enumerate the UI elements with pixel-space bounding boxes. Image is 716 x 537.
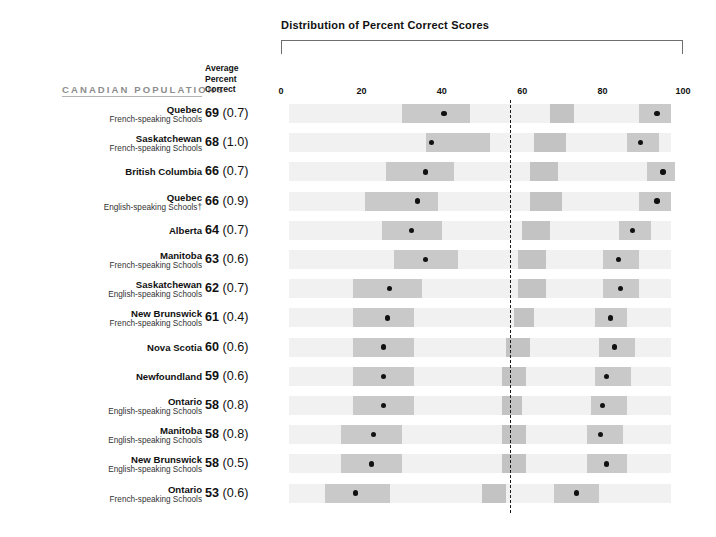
x-axis-tick-100: 100 — [675, 86, 690, 96]
row-standard-error: (0.6) — [219, 252, 248, 266]
median-marker-dot — [369, 461, 374, 466]
row-label-sublabel: English-speaking Schools — [62, 436, 202, 446]
row-standard-error: (0.6) — [219, 486, 248, 500]
row-mean: 66 — [205, 164, 219, 178]
median-marker-dot — [385, 315, 390, 320]
row-average-value: 59 (0.6) — [205, 369, 267, 383]
row-label: Newfoundland — [62, 371, 202, 382]
row-average-value: 62 (0.7) — [205, 281, 267, 295]
row-label-sublabel: French-speaking Schools — [62, 261, 202, 271]
row-average-value: 69 (0.7) — [205, 106, 267, 120]
row-average-value: 58 (0.8) — [205, 398, 267, 412]
row-label: ManitobaFrench-speaking Schools — [62, 250, 202, 271]
row-label: New BrunswickEnglish-speaking Schools — [62, 454, 202, 475]
row-standard-error: (0.8) — [219, 427, 248, 441]
column-header-average-line1: Average — [205, 63, 251, 74]
row-average-value: 60 (0.6) — [205, 340, 267, 354]
row-average-value: 66 (0.7) — [205, 164, 267, 178]
row-standard-error: (0.5) — [219, 456, 248, 470]
percentile-segment — [591, 396, 627, 415]
row-label-sublabel: English-speaking Schools — [62, 290, 202, 300]
percentile-segment — [502, 425, 526, 444]
row-label-name: Newfoundland — [62, 371, 202, 382]
row-average-value: 63 (0.6) — [205, 252, 267, 266]
percentile-segment — [534, 133, 566, 152]
row-standard-error: (0.8) — [219, 398, 248, 412]
percentile-segment — [502, 367, 526, 386]
row-label: SaskatchewanEnglish-speaking Schools — [62, 279, 202, 300]
chart-row: OntarioFrench-speaking Schools53 (0.6) — [0, 484, 716, 513]
chart-row: OntarioEnglish-speaking Schools58 (0.8) — [0, 396, 716, 425]
percentile-segment — [518, 250, 546, 269]
row-average-value: 58 (0.5) — [205, 456, 267, 470]
distribution-band — [289, 162, 671, 181]
row-mean: 53 — [205, 486, 219, 500]
row-label-name: Manitoba — [62, 250, 202, 261]
row-label: Nova Scotia — [62, 342, 202, 353]
median-marker-dot — [441, 111, 446, 116]
percentile-segment — [587, 425, 623, 444]
percentile-segment — [522, 221, 550, 240]
reference-line — [510, 100, 511, 513]
distribution-band — [289, 221, 671, 240]
row-average-value: 58 (0.8) — [205, 427, 267, 441]
median-marker-dot — [604, 461, 609, 466]
row-label-name: Ontario — [62, 396, 202, 407]
row-average-value: 68 (1.0) — [205, 135, 267, 149]
row-average-value: 53 (0.6) — [205, 486, 267, 500]
row-standard-error: (1.0) — [219, 135, 248, 149]
column-header-average-line2: Percent — [205, 74, 251, 85]
percentile-segment — [550, 104, 574, 123]
row-label: ManitobaEnglish-speaking Schools — [62, 425, 202, 446]
percentile-segment — [365, 192, 437, 211]
median-marker-dot — [660, 169, 665, 174]
row-mean: 61 — [205, 310, 219, 324]
row-label: SaskatchewanFrench-speaking Schools — [62, 133, 202, 154]
header-divider — [62, 96, 202, 97]
row-standard-error: (0.6) — [219, 340, 248, 354]
column-header-average-line3: Correct — [205, 84, 251, 95]
column-header-average: Average Percent Correct — [205, 63, 251, 95]
row-label: OntarioFrench-speaking Schools — [62, 484, 202, 505]
chart-title: Distribution of Percent Correct Scores — [281, 19, 489, 31]
row-standard-error: (0.7) — [219, 281, 248, 295]
row-mean: 64 — [205, 223, 219, 237]
row-label-sublabel: French-speaking Schools — [62, 144, 202, 154]
median-marker-dot — [381, 344, 386, 349]
row-mean: 68 — [205, 135, 219, 149]
row-standard-error: (0.9) — [219, 194, 248, 208]
median-marker-dot — [608, 315, 613, 320]
row-label-name: Saskatchewan — [62, 279, 202, 290]
chart-row: ManitobaEnglish-speaking Schools58 (0.8) — [0, 425, 716, 454]
percentile-segment — [353, 308, 413, 327]
percentile-segment — [530, 162, 558, 181]
row-label: QuebecEnglish-speaking Schools† — [62, 192, 202, 213]
percentile-segment — [402, 104, 470, 123]
chart-row: QuebecEnglish-speaking Schools†66 (0.9) — [0, 192, 716, 221]
row-label-name: British Columbia — [62, 166, 202, 177]
row-mean: 58 — [205, 456, 219, 470]
row-label-sublabel: French-speaking Schools — [62, 495, 202, 505]
chart-row: Newfoundland59 (0.6) — [0, 367, 716, 396]
percentile-segment — [518, 279, 546, 298]
row-average-value: 61 (0.4) — [205, 310, 267, 324]
row-label-name: Ontario — [62, 484, 202, 495]
distribution-band — [289, 104, 671, 123]
column-header-populations: CANADIAN POPULATIONS — [62, 84, 202, 95]
x-axis-tick-80: 80 — [598, 86, 608, 96]
percentile-segment — [514, 308, 534, 327]
axis-bracket — [281, 40, 683, 54]
row-label-name: Saskatchewan — [62, 133, 202, 144]
row-label-sublabel: English-speaking Schools — [62, 465, 202, 475]
row-standard-error: (0.7) — [219, 106, 248, 120]
percentile-segment — [530, 192, 562, 211]
chart-row: ManitobaFrench-speaking Schools63 (0.6) — [0, 250, 716, 279]
row-mean: 63 — [205, 252, 219, 266]
median-marker-dot — [654, 198, 659, 203]
x-axis-tick-0: 0 — [278, 86, 283, 96]
percentile-segment — [386, 162, 454, 181]
row-label-sublabel: French-speaking Schools — [62, 115, 202, 125]
percentile-segment — [502, 454, 526, 473]
row-label-name: New Brunswick — [62, 308, 202, 319]
chart-row: New BrunswickFrench-speaking Schools61 (… — [0, 308, 716, 337]
